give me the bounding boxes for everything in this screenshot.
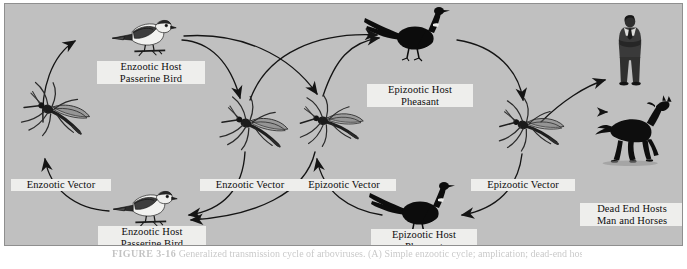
arrow-epizootic-vector-right-to-man bbox=[541, 80, 605, 122]
diagram-panel: Enzootic Vector Enzootic Host Passerine … bbox=[4, 3, 683, 246]
man-icon bbox=[619, 15, 641, 85]
passerine-bird-icon bbox=[112, 20, 176, 55]
label-enzootic-vector-mid[interactable]: Enzootic Vector bbox=[200, 179, 300, 191]
label-enzootic-host-passerine-top[interactable]: Enzootic Host Passerine Bird bbox=[97, 61, 205, 84]
figure-caption-label: FIGURE 3-16 bbox=[112, 248, 176, 259]
label-epizootic-host-pheasant-top[interactable]: Epizootic Host Pheasant bbox=[367, 84, 473, 107]
mosquito-icon bbox=[496, 95, 567, 157]
label-epizootic-vector-right[interactable]: Epizootic Vector bbox=[471, 179, 575, 191]
figure-caption: FIGURE 3-16 Generalized transmission cyc… bbox=[112, 248, 582, 259]
figure-caption-text: Generalized transmission cycle of arbovi… bbox=[179, 248, 582, 259]
label-epizootic-vector-mid[interactable]: Epizootic Vector bbox=[292, 179, 396, 191]
label-dead-end-hosts[interactable]: Dead End Hosts Man and Horses bbox=[580, 203, 683, 226]
horse-icon bbox=[595, 95, 671, 166]
mosquito-icon bbox=[18, 77, 96, 148]
label-epizootic-host-pheasant-bottom[interactable]: Epizootic Host Pheasant bbox=[371, 229, 477, 246]
figure-arbovirus-transmission-cycle: Enzootic Vector Enzootic Host Passerine … bbox=[0, 0, 687, 269]
mosquito-icon bbox=[216, 91, 293, 160]
passerine-bird-icon bbox=[113, 191, 177, 226]
label-enzootic-host-passerine-bottom[interactable]: Enzootic Host Passerine Bird bbox=[98, 226, 206, 246]
figure-caption-strip: FIGURE 3-16 Generalized transmission cyc… bbox=[0, 246, 687, 269]
pheasant-icon bbox=[364, 7, 450, 61]
mosquito-icon bbox=[298, 92, 366, 151]
label-enzootic-vector-left[interactable]: Enzootic Vector bbox=[11, 179, 111, 191]
